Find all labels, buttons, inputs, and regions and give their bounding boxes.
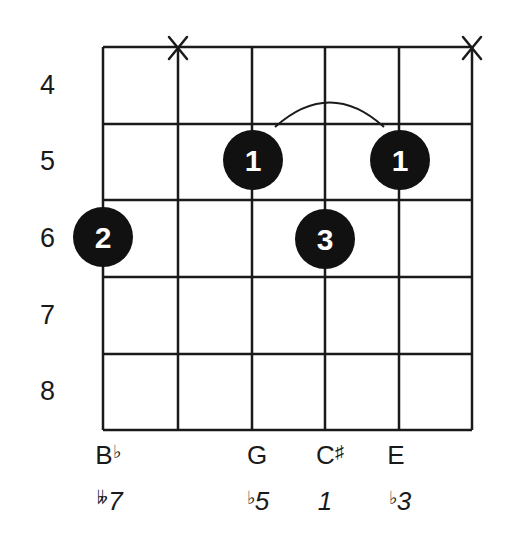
note-label: G — [247, 440, 267, 471]
fret-number: 7 — [40, 300, 80, 331]
fret-number: 6 — [40, 223, 80, 254]
interval-label: 1 — [318, 486, 332, 517]
fret-lines — [103, 47, 472, 430]
fret-number: 8 — [40, 376, 80, 407]
svg-text:3: 3 — [317, 223, 334, 256]
interval-label: 𝄫7 — [97, 486, 122, 517]
finger-dot: 2 — [73, 207, 133, 267]
note-label: E — [387, 440, 404, 471]
note-label: B♭ — [95, 440, 120, 471]
interval-label: ♭5 — [247, 486, 269, 517]
finger-dot: 3 — [295, 209, 355, 269]
finger-dot: 1 — [223, 130, 283, 190]
fret-number: 5 — [40, 146, 80, 177]
note-label: C♯ — [316, 440, 344, 471]
svg-text:1: 1 — [245, 144, 262, 177]
interval-label: ♭3 — [389, 486, 411, 517]
svg-text:2: 2 — [95, 221, 112, 254]
string-lines — [103, 47, 472, 430]
fret-number: 4 — [40, 70, 80, 101]
svg-text:1: 1 — [392, 144, 409, 177]
finger-dot: 1 — [370, 130, 430, 190]
